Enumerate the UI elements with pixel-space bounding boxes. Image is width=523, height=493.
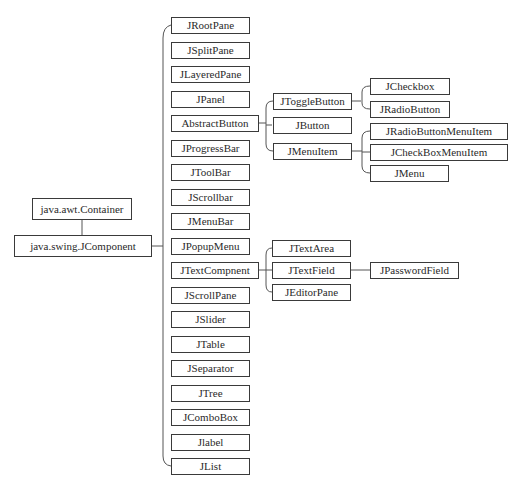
- node-jtextcompnent: JTextCompnent: [171, 262, 259, 279]
- node-jslider: JSlider: [171, 311, 250, 328]
- node-jmenubar: JMenuBar: [171, 213, 250, 230]
- node-jseparator: JSeparator: [171, 360, 250, 377]
- node-jrootpane: JRootPane: [171, 17, 250, 34]
- node-jtextfield: JTextField: [272, 262, 351, 279]
- node-jmenu: JMenu: [370, 165, 449, 182]
- node-jlist: JList: [171, 458, 250, 475]
- node-jcheckbox: JCheckbox: [370, 78, 450, 95]
- node-jpopupmenu: JPopupMenu: [171, 238, 250, 255]
- node-jeditorpane: JEditorPane: [272, 284, 351, 301]
- node-jtoolbar: JToolBar: [171, 164, 250, 181]
- node-abstractbutton: AbstractButton: [171, 115, 259, 132]
- node-jtogglebutton: JToggleButton: [273, 93, 352, 110]
- node-java-swing-jcomponent: java.swing.JComponent: [14, 235, 152, 257]
- node-jpanel: JPanel: [171, 91, 250, 108]
- node-jpasswordfield: JPasswordField: [370, 262, 459, 279]
- node-jmenuitem: JMenuItem: [273, 143, 352, 160]
- node-java-awt-container: java.awt.Container: [32, 198, 132, 220]
- node-jtree: JTree: [171, 385, 250, 402]
- swing-class-hierarchy-diagram: java.awt.Container java.swing.JComponent…: [0, 0, 523, 493]
- node-jprogressbar: JProgressBar: [171, 140, 250, 157]
- node-jscrollbar: JScrollbar: [171, 189, 250, 206]
- node-jbutton: JButton: [273, 117, 352, 134]
- node-jsplitpane: JSplitPane: [171, 42, 250, 59]
- node-jlayeredpane: JLayeredPane: [171, 66, 250, 83]
- node-jcombobox: JComboBox: [171, 409, 250, 426]
- node-jcheckboxmenuitem: JCheckBoxMenuItem: [370, 144, 508, 161]
- node-jtextarea: JTextArea: [272, 240, 351, 257]
- node-jradiobuttonmenuitem: JRadioButtonMenuItem: [370, 123, 508, 140]
- node-jlabel: Jlabel: [171, 434, 250, 451]
- node-jradiobutton: JRadioButton: [370, 101, 450, 118]
- node-jtable: JTable: [171, 336, 250, 353]
- node-jscrollpane: JScrollPane: [171, 287, 250, 304]
